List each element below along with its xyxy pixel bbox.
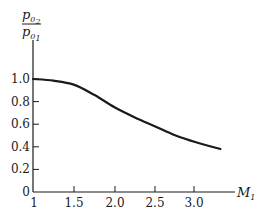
svg-text:3.0: 3.0 xyxy=(184,196,203,210)
svg-text:2.5: 2.5 xyxy=(145,196,164,210)
x-tick-labels: 1 1.5 2.0 2.5 3.0 xyxy=(30,196,203,210)
svg-text:0.4: 0.4 xyxy=(11,140,30,154)
chart: p02 p01 0 0.2 0.4 0.6 0.8 1.0 1 1.5 2.0 … xyxy=(0,0,267,218)
y-tick-labels: 0 0.2 0.4 0.6 0.8 1.0 xyxy=(11,72,30,199)
svg-text:2.0: 2.0 xyxy=(105,196,124,210)
svg-text:p01: p01 xyxy=(22,24,41,43)
svg-text:1.5: 1.5 xyxy=(64,196,83,210)
data-curve xyxy=(33,79,220,149)
y-ticks xyxy=(33,79,39,169)
svg-text:0: 0 xyxy=(22,185,30,199)
x-ticks xyxy=(74,186,194,192)
svg-text:0.2: 0.2 xyxy=(11,162,30,176)
svg-text:1.0: 1.0 xyxy=(11,72,30,86)
svg-text:0.8: 0.8 xyxy=(11,95,30,109)
svg-text:0.6: 0.6 xyxy=(11,117,30,131)
svg-text:1: 1 xyxy=(30,196,38,210)
y-axis-label: p02 p01 xyxy=(22,7,41,43)
x-axis-label: M1 xyxy=(236,185,255,202)
